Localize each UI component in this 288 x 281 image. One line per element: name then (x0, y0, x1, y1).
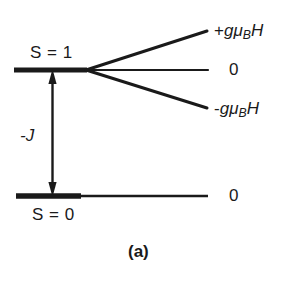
lower-state-label: S = 0 (32, 206, 75, 223)
exchange-gap-label-symbol: J (26, 126, 35, 145)
zeeman-branch-plus-line (86, 31, 207, 70)
zeeman-minus-field: H (247, 99, 259, 118)
zeeman-plus-field: H (251, 21, 263, 40)
zeeman-plus-subscript: B (243, 28, 251, 42)
zeeman-plus-sign: + (214, 21, 224, 40)
figure-caption: (a) (128, 243, 149, 260)
zeeman-branch-plus-label: +gμBH (214, 22, 263, 42)
zeeman-plus-mu: μ (233, 21, 242, 40)
energy-level-diagram: S = 1 S = 0 -J +gμBH 0 -gμBH 0 (a) (0, 0, 288, 281)
upper-state-label: S = 1 (30, 44, 73, 61)
exchange-gap-label: -J (20, 127, 34, 144)
zeeman-branch-minus-label: -gμBH (214, 100, 259, 120)
zeeman-branch-minus-line (86, 70, 207, 108)
zeeman-plus-g: g (224, 21, 233, 40)
zeeman-minus-g: g (220, 99, 229, 118)
zeeman-branch-zero-label: 0 (229, 61, 238, 78)
singlet-energy-label: 0 (229, 187, 238, 204)
zeeman-minus-subscript: B (238, 106, 246, 120)
